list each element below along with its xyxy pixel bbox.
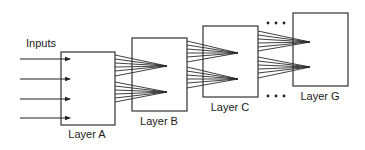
layer-c-box [203, 26, 258, 97]
layer-a-box [61, 52, 115, 125]
layer-b-box [132, 38, 187, 111]
layer-b-label: Layer B [140, 115, 178, 127]
layer-g-box [293, 13, 348, 86]
layer-b: Layer B [132, 38, 187, 127]
layer-c-label: Layer C [211, 101, 250, 113]
layer-a: Layer A [61, 52, 115, 140]
layer-g: Layer G [293, 13, 348, 102]
network-diagram: Inputs Layer A Layer B Layer C Layer G [0, 0, 365, 150]
layer-c: Layer C [203, 26, 258, 113]
ellipsis-bottom [267, 95, 286, 98]
layer-g-label: Layer G [300, 90, 339, 102]
inputs-label: Inputs [26, 37, 56, 49]
layer-a-label: Layer A [68, 128, 106, 140]
ellipsis-top [267, 22, 286, 25]
